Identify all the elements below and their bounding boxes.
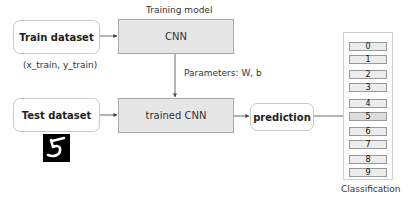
train-dataset-label: Train dataset — [19, 32, 93, 43]
classification-panel: 0 1 2 3 4 5 6 7 8 9 — [343, 32, 393, 180]
class-item-4: 4 — [349, 99, 387, 108]
class-item-0: 0 — [349, 42, 387, 51]
cnn-label: CNN — [165, 31, 187, 42]
class-item-8: 8 — [349, 155, 387, 164]
parameters-label: Parameters: W, b — [184, 68, 262, 78]
class-item-6: 6 — [349, 127, 387, 136]
class-item-3: 3 — [349, 83, 387, 92]
train-dataset-box: Train dataset — [13, 20, 100, 54]
class-item-2: 2 — [349, 70, 387, 79]
mnist-digit-5-image — [43, 134, 70, 162]
class-item-1: 1 — [349, 55, 387, 64]
trained-cnn-label: trained CNN — [146, 110, 207, 121]
prediction-label: prediction — [253, 112, 311, 123]
class-item-9: 9 — [349, 168, 387, 177]
trained-cnn-box: trained CNN — [118, 98, 234, 133]
cnn-box: CNN — [118, 19, 234, 54]
class-item-5-selected: 5 — [349, 112, 387, 121]
test-dataset-label: Test dataset — [22, 110, 91, 121]
classification-caption: Classification — [341, 184, 401, 194]
training-model-title: Training model — [146, 5, 212, 15]
test-dataset-box: Test dataset — [13, 98, 100, 132]
train-dataset-caption: (x_train, y_train) — [23, 60, 97, 70]
class-item-7: 7 — [349, 140, 387, 149]
prediction-box: prediction — [250, 103, 314, 131]
